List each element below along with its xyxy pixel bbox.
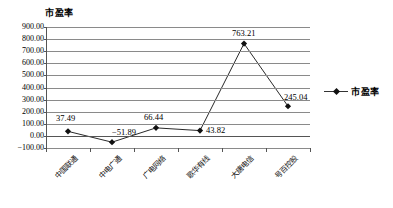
x-axis-category-label: 中电广通 (92, 152, 124, 184)
data-point-label: 763.21 (232, 28, 255, 38)
y-axis-tick-label: 800.00 (0, 34, 44, 43)
data-point-label: 66.44 (144, 112, 163, 122)
gridline (46, 51, 310, 52)
diamond-marker-icon (65, 128, 71, 134)
diamond-marker-icon (332, 88, 339, 95)
y-axis-tick-label: 700.00 (0, 46, 44, 55)
plot-area (46, 27, 310, 148)
x-axis-labels: 中国联通中电广通广电网络歌华有线大唐电信号百控股 (46, 152, 310, 208)
diamond-marker-icon (197, 127, 203, 133)
gridline (46, 27, 310, 28)
x-axis-category-label: 大唐电信 (224, 152, 256, 184)
gridline (46, 63, 310, 64)
chart-title: 市盈率 (45, 6, 74, 19)
y-axis-line (46, 27, 47, 148)
y-axis-tick-label: −100.00 (0, 143, 44, 152)
chart-container: 市盈率 900.00800.00700.00600.00500.00400.00… (0, 0, 393, 208)
legend-line-swatch (324, 91, 348, 92)
data-point-label: −51.89 (112, 127, 136, 137)
x-axis-tick-mark (310, 148, 311, 152)
gridline (46, 100, 310, 101)
gridline (46, 39, 310, 40)
diamond-marker-icon (241, 40, 247, 46)
x-axis-category-label: 广电网络 (136, 152, 168, 184)
y-axis-tick-label: 200.00 (0, 107, 44, 116)
y-axis-tick-label: 100.00 (0, 119, 44, 128)
series-polyline (68, 44, 288, 143)
diamond-marker-icon (153, 125, 159, 131)
gridline (46, 124, 310, 125)
x-axis-category-label: 歌华有线 (180, 152, 212, 184)
gridline (46, 88, 310, 89)
gridline (46, 112, 310, 113)
data-point-label: 43.82 (206, 125, 225, 135)
data-point-label: 37.49 (56, 113, 75, 123)
x-axis-category-label: 号百控股 (268, 152, 300, 184)
y-axis-tick-label: 500.00 (0, 70, 44, 79)
y-axis-tick-label: 900.00 (0, 22, 44, 31)
chart-legend: 市盈率 (324, 85, 380, 98)
data-point-label: 245.04 (284, 92, 307, 102)
y-axis-tick-label: 400.00 (0, 83, 44, 92)
diamond-marker-icon (285, 103, 291, 109)
y-axis: 900.00800.00700.00600.00500.00400.00300.… (0, 27, 44, 148)
x-axis-category-label: 中国联通 (48, 152, 80, 184)
y-axis-tick-label: 0.00 (0, 131, 44, 140)
diamond-marker-icon (109, 139, 115, 145)
y-axis-tick-label: 600.00 (0, 58, 44, 67)
y-axis-tick-label: 300.00 (0, 95, 44, 104)
gridline (46, 75, 310, 76)
legend-entry-label: 市盈率 (351, 85, 380, 98)
x-axis-line (46, 136, 310, 137)
